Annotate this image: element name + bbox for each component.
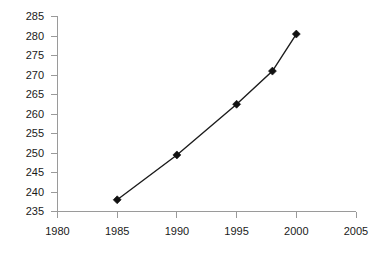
y-axis-label-280: 280 bbox=[14, 30, 44, 42]
y-axis-label-275: 275 bbox=[14, 49, 44, 61]
data-point-2000 bbox=[292, 30, 300, 38]
data-markers bbox=[113, 30, 300, 204]
data-series-line bbox=[117, 34, 296, 200]
chart-plot-area bbox=[0, 0, 384, 254]
x-axis-label-1990: 1990 bbox=[157, 225, 197, 237]
y-axis-label-285: 285 bbox=[14, 10, 44, 22]
x-axis-label-1985: 1985 bbox=[97, 225, 137, 237]
y-axis-label-245: 245 bbox=[14, 166, 44, 178]
line-chart: 285 280 275 270 265 260 255 250 245 240 … bbox=[0, 0, 384, 254]
y-axis-label-270: 270 bbox=[14, 69, 44, 81]
x-axis-label-1980: 1980 bbox=[38, 225, 78, 237]
y-axis-label-255: 255 bbox=[14, 127, 44, 139]
x-axis bbox=[58, 212, 357, 219]
x-axis-label-2000: 2000 bbox=[276, 225, 316, 237]
y-axis-label-260: 260 bbox=[14, 108, 44, 120]
x-axis-label-2005: 2005 bbox=[336, 225, 376, 237]
y-axis-label-250: 250 bbox=[14, 147, 44, 159]
y-axis-label-265: 265 bbox=[14, 88, 44, 100]
y-axis-label-235: 235 bbox=[14, 205, 44, 217]
x-axis-label-1995: 1995 bbox=[217, 225, 257, 237]
y-axis-label-240: 240 bbox=[14, 186, 44, 198]
series-polyline bbox=[117, 34, 296, 200]
y-axis bbox=[51, 16, 58, 212]
